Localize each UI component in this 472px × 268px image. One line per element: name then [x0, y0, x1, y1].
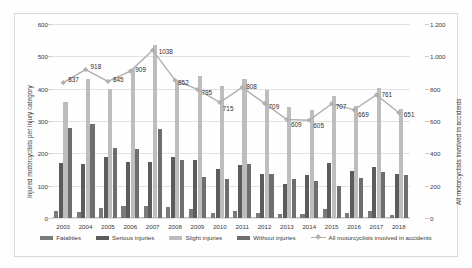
data-label: 709 — [269, 103, 280, 110]
legend-item[interactable]: All motorcyclists involved in accidents — [311, 234, 432, 241]
legend-item[interactable]: Without injuries — [237, 234, 295, 241]
legend-line-swatch — [311, 235, 326, 240]
legend-label: Slight injuries — [185, 234, 222, 241]
y-axis-right-tick-label: 400 — [430, 150, 440, 157]
x-axis-tick-label: 2017 — [364, 223, 388, 230]
data-label: 715 — [223, 105, 234, 112]
x-axis-tick-label: 2011 — [230, 223, 254, 230]
data-label: 761 — [381, 91, 392, 98]
chart-container: Injured motorcyclists per injury categor… — [0, 0, 472, 268]
x-axis-tick-label: 2008 — [163, 223, 187, 230]
x-axis-tick-label: 2014 — [297, 223, 321, 230]
legend-item[interactable]: Slight injuries — [169, 234, 222, 241]
legend-color-swatch — [169, 236, 182, 240]
legend-label: All motorcyclists involved in accidents — [329, 234, 432, 241]
x-axis-tick-label: 2006 — [118, 223, 142, 230]
data-label: 707 — [336, 103, 347, 110]
legend-label: Fatalities — [56, 234, 81, 241]
y-axis-tick-label: 100 — [38, 182, 48, 189]
data-label: 605 — [313, 122, 324, 129]
y-axis-tick-label: 600 — [38, 21, 48, 28]
plot-area: 0100200300400500600 02004006008001.0001.… — [52, 24, 410, 218]
x-axis-tick-label: 2018 — [387, 223, 411, 230]
gridline — [52, 218, 410, 219]
line-marker[interactable] — [105, 79, 110, 84]
x-axis-tick-label: 2005 — [96, 223, 120, 230]
legend-color-swatch — [237, 236, 250, 240]
legend-item[interactable]: Fatalities — [40, 234, 81, 241]
y-axis-title-right: All motorcyclists involved in accidents — [455, 98, 462, 205]
y-axis-tick-mark — [48, 218, 52, 219]
legend-color-swatch — [96, 236, 109, 240]
x-axis-tick-label: 2016 — [342, 223, 366, 230]
line-series-all-motorcyclists — [52, 24, 410, 218]
data-label: 1038 — [159, 48, 173, 55]
x-axis-tick-label: 2013 — [275, 223, 299, 230]
x-axis-tick-label: 2010 — [208, 223, 232, 230]
y-axis-right-tick-mark — [425, 24, 429, 25]
data-label: 651 — [404, 111, 415, 118]
y-axis-tick-label: 200 — [38, 150, 48, 157]
legend-item[interactable]: Serious injuries — [96, 234, 154, 241]
chart-legend: FatalitiesSerious injuriesSlight injurie… — [14, 234, 458, 241]
y-axis-tick-label: 300 — [38, 118, 48, 125]
legend-label: Without injuries — [253, 234, 295, 241]
y-axis-right-tick-label: 1.200 — [430, 21, 445, 28]
legend-color-swatch — [40, 236, 53, 240]
y-axis-right-tick-label: 1.000 — [430, 53, 445, 60]
data-label: 909 — [135, 66, 146, 73]
x-axis-tick-label: 2003 — [51, 223, 75, 230]
data-label: 852 — [178, 79, 189, 86]
legend-marker — [315, 234, 321, 240]
x-axis-tick-label: 2007 — [141, 223, 165, 230]
data-label: 669 — [358, 111, 369, 118]
data-label: 837 — [68, 76, 79, 83]
y-axis-right-tick-mark — [425, 89, 429, 90]
y-axis-right-tick-mark — [425, 186, 429, 187]
x-axis-tick-label: 2015 — [320, 223, 344, 230]
x-axis-tick-label: 2009 — [185, 223, 209, 230]
legend-label: Serious injuries — [112, 234, 154, 241]
y-axis-right-tick-label: 200 — [430, 182, 440, 189]
data-label: 795 — [201, 89, 212, 96]
data-label: 845 — [113, 76, 124, 83]
y-axis-tick-label: 500 — [38, 53, 48, 60]
y-axis-tick-label: 400 — [38, 85, 48, 92]
y-axis-right-tick-mark — [425, 218, 429, 219]
y-axis-right-tick-mark — [425, 153, 429, 154]
x-axis-tick-label: 2012 — [253, 223, 277, 230]
y-axis-title-left: Injured motorcyclists per injury categor… — [26, 85, 33, 198]
data-label: 808 — [246, 83, 257, 90]
data-label: 918 — [91, 63, 102, 70]
data-label: 609 — [291, 121, 302, 128]
y-axis-right-tick-mark — [425, 121, 429, 122]
y-axis-right-tick-label: 600 — [430, 118, 440, 125]
x-axis-tick-label: 2004 — [74, 223, 98, 230]
y-axis-right-tick-mark — [425, 56, 429, 57]
y-axis-right-tick-label: 0 — [430, 215, 433, 222]
y-axis-right-tick-label: 800 — [430, 85, 440, 92]
